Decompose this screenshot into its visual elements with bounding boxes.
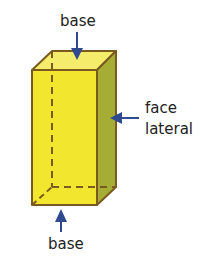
lateral-side-face	[97, 51, 116, 205]
label-lateral-face-line1: face	[145, 99, 177, 117]
label-top-base: base	[60, 12, 96, 30]
front-face	[32, 70, 97, 205]
label-bottom-base: base	[48, 235, 84, 253]
prism-diagram: base face lateral base	[0, 0, 215, 271]
arrow-bottom-base	[55, 209, 67, 232]
label-lateral-face-line2: lateral	[145, 120, 193, 138]
